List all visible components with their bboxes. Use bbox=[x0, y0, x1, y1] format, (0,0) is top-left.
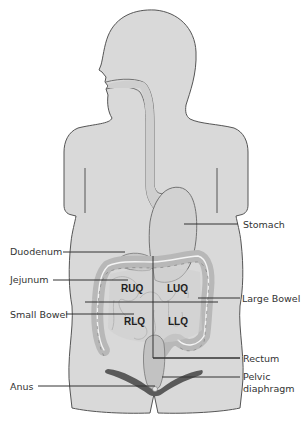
quadrant-luq: LUQ bbox=[167, 283, 188, 294]
label-rectum: Rectum bbox=[243, 353, 279, 364]
label-pelvic-diaphragm-line2: diaphragm bbox=[243, 383, 295, 394]
label-anus: Anus bbox=[10, 381, 34, 392]
rectum bbox=[143, 335, 164, 390]
quadrant-rlq: RLQ bbox=[124, 316, 145, 327]
anus bbox=[153, 387, 158, 392]
label-small-bowel: Small Bowel bbox=[10, 309, 68, 320]
quadrant-llq: LLQ bbox=[168, 316, 188, 327]
label-jejunum: Jejunum bbox=[10, 274, 49, 285]
label-duodenum: Duodenum bbox=[10, 246, 62, 257]
quadrant-ruq: RUQ bbox=[121, 283, 143, 294]
label-stomach: Stomach bbox=[243, 219, 285, 230]
small-bowel-fill bbox=[108, 268, 202, 342]
label-pelvic-diaphragm-line1: Pelvic bbox=[243, 371, 270, 382]
label-large-bowel: Large Bowel bbox=[242, 293, 300, 304]
